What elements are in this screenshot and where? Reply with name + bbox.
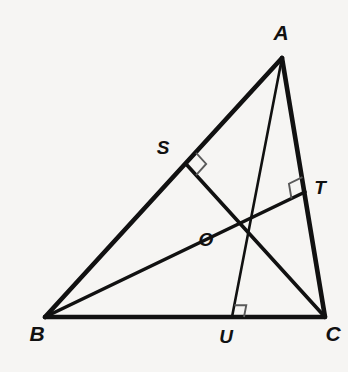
side-ab (45, 58, 282, 317)
vertex-label-b: B (29, 322, 44, 345)
point-label-o: O (199, 229, 214, 250)
altitude-from-a-to-u (232, 58, 282, 317)
vertex-label-a: A (272, 21, 288, 44)
triangle-orthocenter-figure: A B C S T U O (0, 0, 348, 372)
point-label-u: U (219, 326, 234, 347)
point-label-s: S (157, 137, 170, 158)
right-angle-marker-s (196, 153, 206, 175)
point-label-t: T (314, 177, 327, 198)
geometry-diagram-canvas: A B C S T U O (0, 0, 348, 372)
vertex-label-c: C (325, 322, 341, 345)
